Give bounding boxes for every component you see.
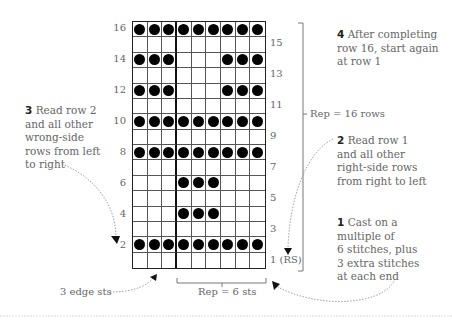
edge-sts-arrow	[110, 278, 153, 292]
note-1-number: 1	[337, 216, 344, 228]
rep-sts-label: Rep = 6 sts	[198, 286, 256, 297]
note-4-line-2: row 16, start again	[337, 42, 439, 54]
note-4: 4 After completing row 16, start again a…	[337, 28, 439, 69]
note-1-line-4: 3 extra stitches	[337, 257, 419, 269]
note-2-line-1: Read row 1	[348, 134, 409, 146]
note-2-line-3: right-side rows	[337, 161, 417, 173]
note-2: 2 Read row 1 and all other right-side ro…	[337, 134, 427, 188]
note2-arrow	[288, 139, 333, 248]
edge-sts-label: 3 edge sts	[60, 286, 112, 297]
note-3: 3 Read row 2 and all other wrong-side ro…	[25, 104, 100, 172]
note-1-line-2: multiple of	[337, 230, 395, 242]
note-1-line-5: at each end	[337, 270, 399, 282]
note-2-number: 2	[337, 134, 344, 146]
note-4-number: 4	[337, 28, 344, 40]
note-3-number: 3	[25, 104, 32, 116]
note-2-line-4: from right to left	[337, 175, 427, 187]
note-4-line-3: at row 1	[337, 55, 381, 67]
note-3-line-5: to right	[25, 158, 65, 170]
rep-rows-label: Rep = 16 rows	[310, 108, 385, 119]
note-3-line-2: and all other	[25, 118, 93, 130]
note-3-line-3: wrong-side	[25, 131, 84, 143]
note-3-line-4: rows from left	[25, 145, 100, 157]
note-4-line-1: After completing	[348, 28, 438, 40]
note-2-line-2: and all other	[337, 148, 405, 160]
note-1: 1 Cast on a multiple of 6 stitches, plus…	[337, 216, 419, 284]
note-3-line-1: Read row 2	[36, 104, 97, 116]
rep-rows-bracket	[298, 23, 307, 271]
note-1-line-3: 6 stitches, plus	[337, 243, 417, 255]
note3-arrow	[62, 164, 116, 236]
note-1-line-1: Cast on a	[348, 216, 398, 228]
